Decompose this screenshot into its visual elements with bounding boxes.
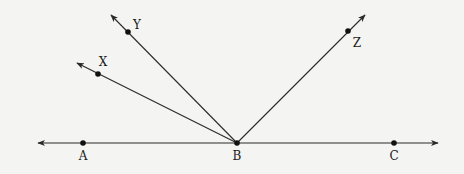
point-label-c: C [389,150,398,162]
point-x [95,71,101,77]
point-y [125,29,131,35]
point-label-b: B [233,150,242,162]
point-b [234,140,240,146]
point-label-a: A [79,150,88,162]
ray-by [111,15,237,143]
ray-bz [237,15,365,143]
point-label-x: X [99,56,108,68]
point-z [345,28,351,34]
point-label-y: Y [133,19,141,31]
ray-bx [77,63,237,143]
geometry-diagram: A B C X Y Z [0,0,464,174]
point-c [391,140,397,146]
diagram-svg [0,0,464,174]
point-a [80,140,86,146]
point-label-z: Z [353,37,361,49]
